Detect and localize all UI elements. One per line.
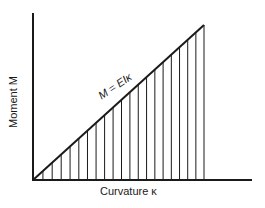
x-axis-label: Curvature κ xyxy=(100,185,157,197)
y-axis-label: Moment M xyxy=(7,67,19,137)
moment-curvature-diagram xyxy=(0,0,265,208)
moment-line xyxy=(33,25,204,180)
